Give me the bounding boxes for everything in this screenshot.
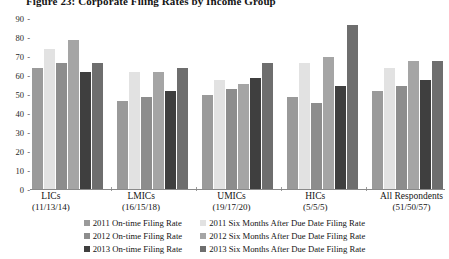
legend-item[interactable]: 2011 Six Months After Due Date Filing Ra… bbox=[200, 217, 365, 229]
bar[interactable] bbox=[238, 84, 249, 190]
y-axis-tick: 20- bbox=[16, 147, 31, 157]
legend-item-label: 2012 On-time Filing Rate bbox=[93, 230, 183, 242]
x-axis-category-count: (11/13/14) bbox=[32, 202, 70, 213]
x-axis-category-umics: UMICs(19/17/20) bbox=[213, 191, 251, 213]
legend-swatch-icon bbox=[84, 246, 90, 252]
bar[interactable] bbox=[80, 72, 91, 190]
plot-area bbox=[30, 19, 445, 190]
x-axis-category-count: (19/17/20) bbox=[213, 202, 251, 213]
bar-group bbox=[372, 19, 443, 190]
bar[interactable] bbox=[165, 91, 176, 190]
bar[interactable] bbox=[56, 63, 67, 190]
y-axis-tick-label: 30 bbox=[16, 128, 25, 138]
y-axis-tick-label: 20 bbox=[16, 147, 25, 157]
bar[interactable] bbox=[226, 89, 237, 190]
bar[interactable] bbox=[384, 68, 395, 190]
legend-item-label: 2011 On-time Filing Rate bbox=[93, 217, 182, 229]
y-axis-tick: 40- bbox=[16, 109, 31, 119]
bar[interactable] bbox=[153, 72, 164, 190]
bar[interactable] bbox=[408, 61, 419, 190]
legend-item-label: 2011 Six Months After Due Date Filing Ra… bbox=[209, 217, 365, 229]
figure-container: Figure 23: Corporate Filing Rates by Inc… bbox=[0, 0, 449, 259]
legend-swatch-icon bbox=[84, 220, 90, 226]
y-axis-tick-label: 70 bbox=[16, 52, 25, 62]
legend-swatch-icon bbox=[200, 233, 206, 239]
legend-swatch-icon bbox=[200, 246, 206, 252]
bar[interactable] bbox=[117, 101, 128, 190]
y-axis-tick: 50- bbox=[16, 90, 31, 100]
bar[interactable] bbox=[32, 68, 43, 190]
figure-title: Figure 23: Corporate Filing Rates by Inc… bbox=[26, 0, 276, 7]
x-axis-category-label: LICs bbox=[41, 191, 60, 201]
y-axis-tick-label: 60 bbox=[16, 71, 25, 81]
chart-legend: 2011 On-time Filing Rate2012 On-time Fil… bbox=[0, 217, 449, 255]
x-axis-category-count: (5/5/5) bbox=[303, 202, 328, 213]
y-axis-tick: 10- bbox=[16, 166, 31, 176]
x-axis-category-label: LMICs bbox=[127, 191, 154, 201]
bar[interactable] bbox=[250, 78, 261, 190]
y-axis-tick-label: 80 bbox=[16, 33, 25, 43]
y-axis-tick-label: 90 bbox=[16, 14, 25, 24]
bar[interactable] bbox=[287, 97, 298, 190]
bar[interactable] bbox=[202, 95, 213, 190]
bar[interactable] bbox=[323, 57, 334, 190]
y-axis-tick: 90- bbox=[16, 14, 31, 24]
x-axis-category-all-respondents: All Respondents(51/50/57) bbox=[380, 191, 443, 213]
bar[interactable] bbox=[432, 61, 443, 190]
bar[interactable] bbox=[141, 97, 152, 190]
bar[interactable] bbox=[68, 40, 79, 190]
legend-item[interactable]: 2011 On-time Filing Rate bbox=[84, 217, 183, 229]
x-axis-line bbox=[30, 189, 445, 190]
bar[interactable] bbox=[335, 86, 346, 191]
bar-group bbox=[287, 19, 358, 190]
x-axis-category-label: HICs bbox=[305, 191, 325, 201]
x-axis-category-label: UMICs bbox=[217, 191, 246, 201]
legend-column-left: 2011 On-time Filing Rate2012 On-time Fil… bbox=[84, 217, 183, 255]
x-axis-category-count: (51/50/57) bbox=[380, 202, 443, 213]
legend-item-label: 2012 Six Months After Due Date Filing Ra… bbox=[209, 230, 365, 242]
y-axis-tick: 0- bbox=[20, 185, 30, 195]
y-axis-tick-label: 40 bbox=[16, 109, 25, 119]
bar[interactable] bbox=[44, 49, 55, 190]
x-axis-category-hics: HICs(5/5/5) bbox=[303, 191, 328, 213]
x-axis-category-lics: LICs(11/13/14) bbox=[32, 191, 70, 213]
y-axis-tick: 30- bbox=[16, 128, 31, 138]
legend-item-label: 2013 On-time Filing Rate bbox=[93, 243, 183, 255]
legend-item[interactable]: 2013 Six Months After Due Date Filing Ra… bbox=[200, 243, 365, 255]
bar[interactable] bbox=[420, 80, 431, 190]
bar-groups bbox=[30, 19, 445, 190]
bar[interactable] bbox=[347, 25, 358, 190]
bar[interactable] bbox=[177, 68, 188, 190]
y-axis-tick: 70- bbox=[16, 52, 31, 62]
x-axis-category-label: All Respondents bbox=[380, 191, 443, 201]
bar[interactable] bbox=[214, 80, 225, 190]
bar[interactable] bbox=[299, 63, 310, 190]
x-axis-labels: LICs(11/13/14)LMICs(16/15/18)UMICs(19/17… bbox=[30, 191, 445, 213]
legend-swatch-icon bbox=[84, 233, 90, 239]
bar-group bbox=[117, 19, 188, 190]
legend-item[interactable]: 2012 Six Months After Due Date Filing Ra… bbox=[200, 230, 365, 242]
x-axis-category-count: (16/15/18) bbox=[122, 202, 160, 213]
bar-group bbox=[32, 19, 103, 190]
x-axis-category-lmics: LMICs(16/15/18) bbox=[122, 191, 160, 213]
legend-swatch-icon bbox=[200, 220, 206, 226]
bar[interactable] bbox=[92, 63, 103, 190]
legend-column-right: 2011 Six Months After Due Date Filing Ra… bbox=[200, 217, 365, 255]
bar[interactable] bbox=[396, 86, 407, 191]
legend-item[interactable]: 2013 On-time Filing Rate bbox=[84, 243, 183, 255]
y-axis-tick-label: 50 bbox=[16, 90, 25, 100]
y-axis-tick: 60- bbox=[16, 71, 31, 81]
bar[interactable] bbox=[311, 103, 322, 190]
y-axis-tick-label: 10 bbox=[16, 166, 25, 176]
y-axis: 0-10-20-30-40-50-60-70-80-90- bbox=[0, 19, 30, 190]
bar[interactable] bbox=[372, 91, 383, 190]
legend-item[interactable]: 2012 On-time Filing Rate bbox=[84, 230, 183, 242]
bar-group bbox=[202, 19, 273, 190]
legend-item-label: 2013 Six Months After Due Date Filing Ra… bbox=[209, 243, 365, 255]
bar[interactable] bbox=[129, 72, 140, 190]
bar[interactable] bbox=[262, 63, 273, 190]
y-axis-tick: 80- bbox=[16, 33, 31, 43]
